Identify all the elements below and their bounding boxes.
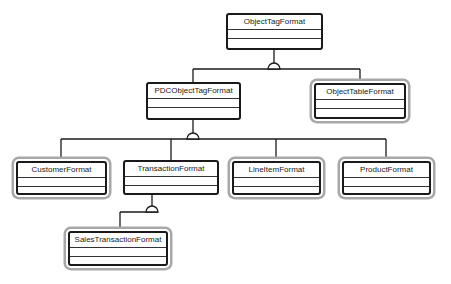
attributes-compartment bbox=[234, 178, 319, 187]
class-sales-transaction-format[interactable]: SalesTransactionFormat bbox=[68, 231, 168, 266]
class-name: ObjectTagFormat bbox=[228, 15, 321, 30]
attributes-compartment bbox=[344, 178, 429, 187]
class-customer-format[interactable]: CustomerFormat bbox=[16, 161, 107, 195]
operations-compartment bbox=[316, 109, 404, 117]
attributes-compartment bbox=[125, 177, 217, 186]
class-transaction-format[interactable]: TransactionFormat bbox=[123, 160, 219, 195]
class-product-format[interactable]: ProductFormat bbox=[342, 161, 431, 195]
class-line-item-format[interactable]: LineItemFormat bbox=[232, 161, 321, 195]
operations-compartment bbox=[344, 187, 429, 193]
class-name: PDCObjectTagFormat bbox=[148, 84, 239, 99]
attributes-compartment bbox=[18, 178, 105, 187]
operations-compartment bbox=[125, 186, 217, 193]
operations-compartment bbox=[70, 257, 166, 264]
class-name: LineItemFormat bbox=[234, 163, 319, 178]
operations-compartment bbox=[228, 39, 321, 48]
class-name: SalesTransactionFormat bbox=[70, 233, 166, 248]
attributes-compartment bbox=[148, 99, 239, 108]
class-object-table-format[interactable]: ObjectTableFormat bbox=[314, 83, 406, 119]
operations-compartment bbox=[18, 187, 105, 193]
operations-compartment bbox=[234, 187, 319, 193]
operations-compartment bbox=[148, 108, 239, 118]
class-name: ProductFormat bbox=[344, 163, 429, 178]
attributes-compartment bbox=[316, 100, 404, 109]
class-name: CustomerFormat bbox=[18, 163, 105, 178]
class-object-tag-format[interactable]: ObjectTagFormat bbox=[226, 13, 323, 50]
class-name: ObjectTableFormat bbox=[316, 85, 404, 100]
class-name: TransactionFormat bbox=[125, 162, 217, 177]
class-pdc-object-tag-format[interactable]: PDCObjectTagFormat bbox=[146, 82, 241, 120]
attributes-compartment bbox=[228, 30, 321, 39]
attributes-compartment bbox=[70, 248, 166, 257]
